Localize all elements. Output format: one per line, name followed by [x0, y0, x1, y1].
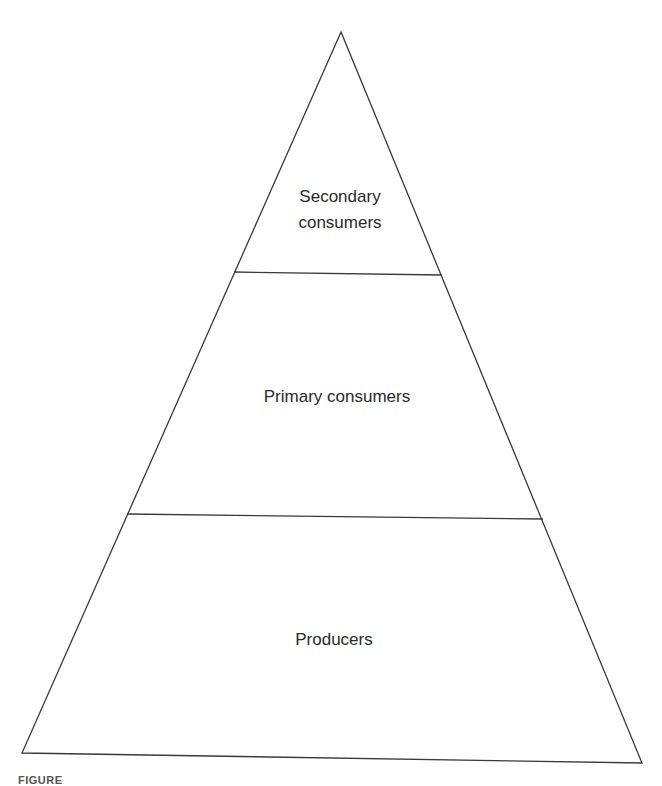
figure-caption: FIGURE	[18, 774, 63, 786]
level-primary-consumers: Primary consumers	[264, 387, 410, 406]
level-label-secondary-line2: consumers	[298, 213, 381, 232]
level-label-secondary-line1: Secondary	[299, 187, 381, 206]
divider-primary-producers	[127, 514, 543, 519]
level-secondary-consumers: Secondary consumers	[298, 187, 381, 232]
level-label-producers: Producers	[295, 630, 372, 649]
divider-secondary-primary	[234, 272, 442, 275]
level-label-primary: Primary consumers	[264, 387, 410, 406]
level-producers: Producers	[295, 630, 372, 649]
